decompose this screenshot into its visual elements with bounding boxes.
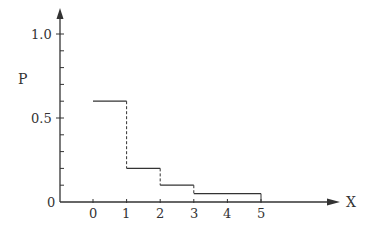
y-tick-label-0: 0 <box>47 195 55 210</box>
x-tick-label-5: 5 <box>257 206 265 221</box>
x-tick-label-2: 2 <box>156 206 164 221</box>
x-axis-label: X <box>346 194 356 210</box>
step-chart: P X 1.0 0.5 0 0 1 2 3 4 5 <box>0 0 371 236</box>
x-tick-label-1: 1 <box>122 206 130 221</box>
y-axis-label: P <box>18 71 27 87</box>
y-axis-arrow-icon <box>57 8 64 19</box>
y-tick-label-1: 1.0 <box>31 27 52 42</box>
x-tick-label-4: 4 <box>223 206 231 221</box>
x-axis-arrow-icon <box>327 199 340 206</box>
step-series <box>93 101 261 202</box>
x-tick-label-3: 3 <box>190 206 198 221</box>
y-tick-label-half: 0.5 <box>31 111 52 126</box>
x-tick-label-0: 0 <box>89 206 97 221</box>
